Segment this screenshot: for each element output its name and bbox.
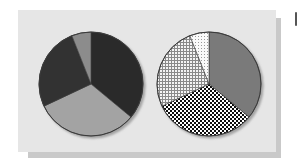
pie-charts xyxy=(0,0,299,164)
pie-chart-right xyxy=(157,32,261,136)
pie-chart-left xyxy=(39,32,143,136)
